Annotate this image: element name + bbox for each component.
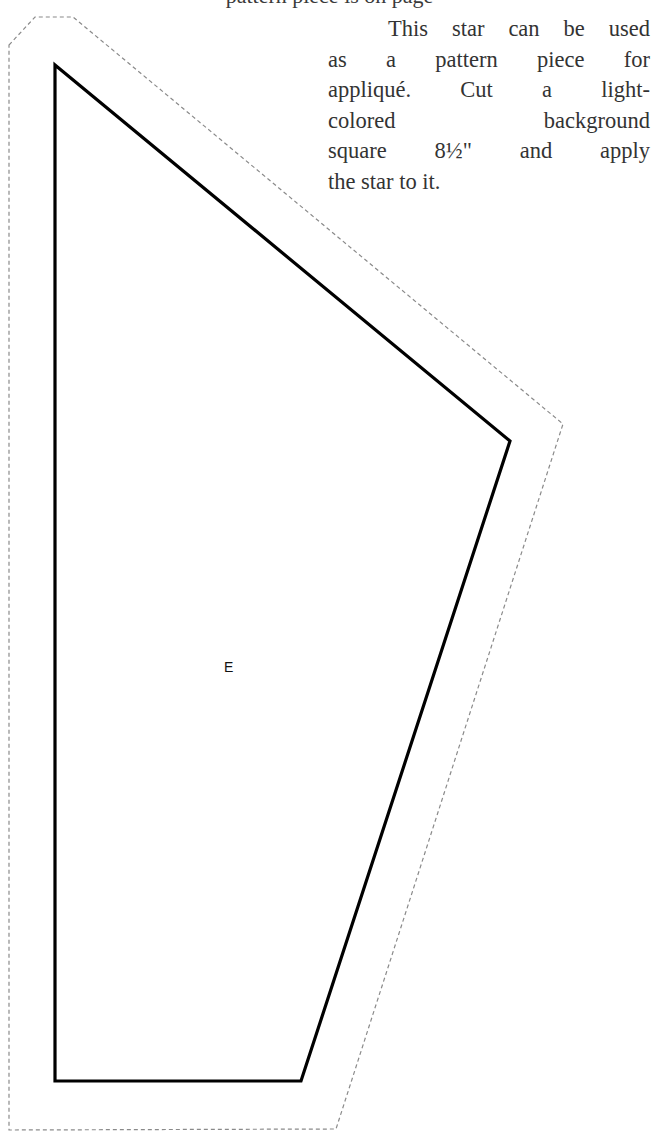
pattern-page: pattern piece is on page This star can b… — [0, 0, 659, 1143]
instruction-line: as a pattern piece for — [328, 45, 650, 76]
cut-line-outline — [55, 65, 510, 1081]
instruction-line: square 8½" and apply — [328, 136, 650, 167]
piece-label: E — [224, 659, 233, 675]
instruction-line: the star to it. — [328, 167, 650, 198]
instruction-line: This star can be used — [328, 14, 650, 45]
instruction-line: appliqué. Cut a light- — [328, 75, 650, 106]
instruction-line: colored background — [328, 106, 650, 137]
applique-instructions: This star can be used as a pattern piece… — [328, 14, 650, 197]
